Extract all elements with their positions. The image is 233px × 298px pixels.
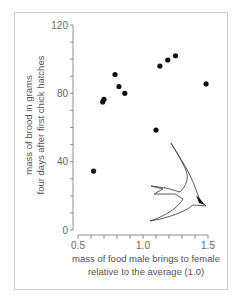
y-tick-label: 0 xyxy=(62,225,68,236)
y-tick-label: 120 xyxy=(51,20,68,31)
y-axis-title-line1: mass of brood in grams xyxy=(23,75,34,175)
tern-bird-icon xyxy=(150,143,206,221)
scatter-chart: 040801200.51.01.5 mass of food male brin… xyxy=(0,0,233,298)
y-tick-label: 40 xyxy=(57,156,69,167)
data-point xyxy=(112,72,117,77)
y-tick-label: 80 xyxy=(57,88,69,99)
data-point xyxy=(122,91,127,96)
data-point xyxy=(91,168,96,173)
data-point xyxy=(157,63,162,68)
x-tick-label: 1.5 xyxy=(201,240,215,251)
data-point xyxy=(116,84,121,89)
axes: 040801200.51.01.5 xyxy=(51,20,215,252)
data-point xyxy=(153,127,158,132)
data-point xyxy=(101,97,106,102)
x-axis-title-line1: mass of food male brings to female xyxy=(72,253,220,264)
data-point xyxy=(165,57,170,62)
data-points xyxy=(91,53,209,174)
x-tick-label: 1.0 xyxy=(136,240,150,251)
data-point xyxy=(173,53,178,58)
data-point xyxy=(203,81,208,86)
x-axis-title-line2: relative to the average (1.0) xyxy=(88,266,204,277)
x-tick-label: 0.5 xyxy=(71,240,85,251)
y-axis-title-line2: four days after first chick hatches xyxy=(35,55,46,194)
